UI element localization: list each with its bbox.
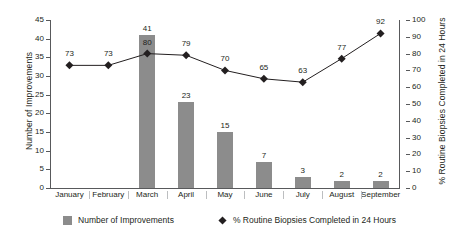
line-value-label-april: 79: [172, 39, 200, 48]
x-label-september: September: [361, 190, 400, 199]
x-label-divider: [206, 191, 207, 199]
y-right-tickmark-80: [406, 54, 410, 55]
x-label-divider: [283, 191, 284, 199]
x-axis-category-labels: JanuaryFebruaryMarchAprilMayJuneJulyAugu…: [50, 190, 400, 204]
y-right-tick-80: 80: [412, 50, 432, 58]
y-axis-right-title: % Routine Biopsies Completed in 24 Hours: [437, 1, 447, 201]
line-marker-september: [377, 29, 385, 37]
line-value-label-july: 63: [289, 66, 317, 75]
y-right-tickmark-70: [406, 70, 410, 71]
y-left-tick-10: 10: [26, 147, 44, 155]
y-right-tickmark-10: [406, 171, 410, 172]
line-marker-january: [65, 61, 73, 69]
line-value-label-june: 65: [250, 63, 278, 72]
x-label-divider: [361, 191, 362, 199]
y-right-tickmark-20: [406, 154, 410, 155]
x-label-divider: [322, 191, 323, 199]
x-label-june: June: [244, 190, 283, 199]
y-right-tickmark-90: [406, 37, 410, 38]
y-right-tick-30: 30: [412, 134, 432, 142]
x-label-divider: [167, 191, 168, 199]
y-left-tick-35: 35: [26, 53, 44, 61]
y-left-tick-0: 0: [26, 184, 44, 192]
line-value-label-september: 92: [367, 17, 395, 26]
y-left-tick-5: 5: [26, 165, 44, 173]
x-label-may: May: [206, 190, 245, 199]
line-marker-march: [143, 50, 151, 58]
bar-swatch-icon: [63, 216, 72, 225]
line-marker-may: [221, 66, 229, 74]
y-left-tick-25: 25: [26, 91, 44, 99]
y-left-tick-30: 30: [26, 72, 44, 80]
line-value-label-march: 80: [133, 38, 161, 47]
y-right-tick-0: 0: [412, 184, 432, 192]
y-right-tickmark-30: [406, 138, 410, 139]
x-label-march: March: [128, 190, 167, 199]
y-right-tick-10: 10: [412, 167, 432, 175]
y-right-tick-60: 60: [412, 83, 432, 91]
plot-area: 4123157322 737380797065637792: [50, 20, 400, 188]
line-marker-august: [338, 55, 346, 63]
combo-chart: Number of Improvements % Routine Biopsie…: [0, 0, 459, 237]
legend-item-bars: Number of Improvements: [63, 215, 174, 225]
y-left-tick-40: 40: [26, 35, 44, 43]
y-right-tick-90: 90: [412, 33, 432, 41]
y-right-tickmark-40: [406, 121, 410, 122]
chart-legend: Number of Improvements % Routine Biopsie…: [0, 213, 459, 227]
legend-item-line: % Routine Biopsies Completed in 24 Hours: [218, 215, 396, 225]
x-label-january: January: [50, 190, 89, 199]
y-right-tickmark-50: [406, 104, 410, 105]
y-left-tick-20: 20: [26, 109, 44, 117]
y-axis-right-ticks: 0102030405060708090100: [406, 0, 426, 237]
x-label-april: April: [167, 190, 206, 199]
y-right-tickmark-60: [406, 87, 410, 88]
y-right-tick-50: 50: [412, 100, 432, 108]
line-value-label-may: 70: [211, 54, 239, 63]
y-right-tick-100: 100: [412, 16, 432, 24]
line-marker-july: [299, 78, 307, 86]
x-label-divider: [244, 191, 245, 199]
line-value-label-august: 77: [328, 43, 356, 52]
y-right-tickmark-100: [406, 20, 410, 21]
line-value-label-january: 73: [55, 49, 83, 58]
y-left-tick-45: 45: [26, 16, 44, 24]
legend-label-bars: Number of Improvements: [78, 215, 174, 225]
diamond-marker-icon: [218, 216, 227, 225]
line-value-label-february: 73: [94, 49, 122, 58]
line-marker-june: [260, 75, 268, 83]
legend-label-line: % Routine Biopsies Completed in 24 Hours: [233, 215, 396, 225]
y-right-tickmark-0: [406, 188, 410, 189]
y-right-tick-70: 70: [412, 66, 432, 74]
y-axis-left-ticks: 051015202530354045: [26, 0, 44, 237]
x-label-divider: [89, 191, 90, 199]
line-marker-april: [182, 51, 190, 59]
x-label-february: February: [89, 190, 128, 199]
line-marker-february: [104, 61, 112, 69]
x-label-july: July: [283, 190, 322, 199]
y-right-tick-20: 20: [412, 150, 432, 158]
y-left-tick-15: 15: [26, 128, 44, 136]
x-label-august: August: [322, 190, 361, 199]
y-right-tick-40: 40: [412, 117, 432, 125]
x-label-divider: [128, 191, 129, 199]
